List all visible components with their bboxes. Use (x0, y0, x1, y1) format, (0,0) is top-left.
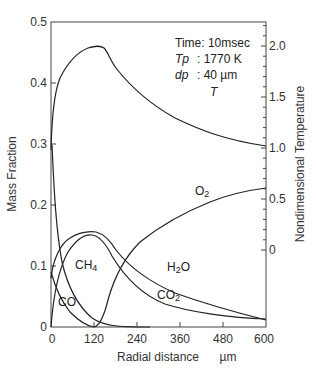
right-axis (261, 26, 266, 250)
chart: 0 0.1 0.2 0.3 0.4 0.5 0 120 240 360 480 … (0, 0, 316, 371)
svg-text:0.3: 0.3 (30, 137, 47, 151)
svg-text:360: 360 (170, 332, 190, 346)
bottom-axis (94, 322, 223, 327)
svg-text:0: 0 (269, 243, 276, 257)
label-T: T (210, 85, 219, 99)
svg-text:: 1770 K: : 1770 K (197, 52, 242, 66)
svg-text:O2: O2 (195, 184, 209, 199)
conditions-annotation: Time: 10msec Tp : 1770 K dp : 40 µm (175, 36, 250, 82)
svg-text:0: 0 (49, 332, 56, 346)
svg-text:0.5: 0.5 (30, 15, 47, 29)
svg-text:600: 600 (254, 332, 274, 346)
label-H2O: H2O (167, 260, 190, 275)
curve-H2O (51, 232, 266, 320)
svg-text:Tp: Tp (175, 52, 189, 66)
svg-text:Time: 10msec: Time: 10msec (175, 36, 250, 50)
label-CO2: CO2 (157, 288, 180, 303)
bottom-tick-labels: 0 120 240 360 480 600 (49, 332, 275, 346)
svg-text:0.5: 0.5 (269, 192, 286, 206)
label-O2: O2 (195, 184, 209, 199)
svg-text:0.2: 0.2 (30, 198, 47, 212)
y-axis-label: Mass Fraction (5, 136, 19, 211)
label-CO: CO (58, 295, 76, 309)
svg-text:120: 120 (84, 332, 104, 346)
curves (51, 46, 266, 327)
svg-text:1.5: 1.5 (269, 90, 286, 104)
y2-axis-label: Nondimensional Temperature (293, 85, 307, 242)
svg-text:dp: dp (175, 68, 189, 82)
left-tick-labels: 0 0.1 0.2 0.3 0.4 0.5 (30, 15, 47, 334)
svg-text:0.4: 0.4 (30, 76, 47, 90)
svg-text:: 40 µm: : 40 µm (197, 68, 237, 82)
svg-text:0.1: 0.1 (30, 259, 47, 273)
x-axis-unit: µm (220, 350, 237, 364)
svg-text:240: 240 (127, 332, 147, 346)
svg-text:2.0: 2.0 (269, 39, 286, 53)
svg-text:CO2: CO2 (157, 288, 180, 303)
svg-text:H2O: H2O (167, 260, 190, 275)
svg-text:480: 480 (213, 332, 233, 346)
curve-O2 (94, 188, 266, 327)
label-CH4: CH4 (75, 258, 97, 273)
svg-text:CH4: CH4 (75, 258, 97, 273)
svg-text:1.0: 1.0 (269, 141, 286, 155)
right-tick-labels: 0 0.5 1.0 1.5 2.0 (269, 39, 286, 257)
curve-CH4 (51, 235, 266, 327)
x-axis-label: Radial distance (117, 350, 199, 364)
svg-text:0: 0 (40, 320, 47, 334)
